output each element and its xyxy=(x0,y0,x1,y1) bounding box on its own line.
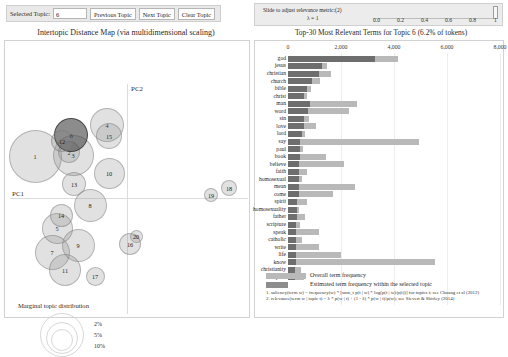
topic-bubble-14[interactable]: 14 xyxy=(50,204,73,227)
legend-label-overall: Overall term frequency xyxy=(310,272,366,278)
term-row[interactable]: catholic xyxy=(288,237,500,243)
term-label[interactable]: jesus xyxy=(275,62,286,68)
term-label[interactable]: father xyxy=(273,213,286,219)
topic-bubble-17[interactable]: 17 xyxy=(86,267,105,286)
term-label[interactable]: faith xyxy=(276,168,286,174)
term-row[interactable]: god xyxy=(288,56,500,62)
bar-topic-frequency xyxy=(288,131,302,137)
topic-bubble-number: 9 xyxy=(76,242,79,249)
bar-topic-frequency xyxy=(288,191,299,197)
term-row[interactable]: bible xyxy=(288,86,500,92)
intertopic-map-plot[interactable]: PC2 PC1 1234567891011121314151617181920 … xyxy=(4,40,250,318)
bar-topic-frequency xyxy=(288,154,300,160)
term-label[interactable]: love xyxy=(276,123,286,129)
term-row[interactable]: father xyxy=(288,214,500,220)
relevance-slider-label: Slide to adjust relevance metric:(2) xyxy=(263,7,353,14)
topic-bubble-number: 14 xyxy=(58,212,64,219)
term-row[interactable]: church xyxy=(288,78,500,84)
term-row[interactable]: believe xyxy=(288,161,500,167)
term-row[interactable]: speak xyxy=(288,229,500,235)
term-label[interactable]: speak xyxy=(273,229,286,235)
bar-topic-frequency xyxy=(288,259,296,265)
topic-bubble-18[interactable]: 18 xyxy=(221,180,237,196)
term-label[interactable]: christian xyxy=(267,70,286,76)
marginal-legend-title: Marginal topic distribution xyxy=(18,302,138,309)
term-row[interactable]: paul xyxy=(288,146,500,152)
term-label[interactable]: homosexual xyxy=(259,176,286,182)
term-row[interactable]: faith xyxy=(288,169,500,175)
term-label[interactable]: know xyxy=(274,259,286,265)
term-label[interactable]: say xyxy=(279,138,286,144)
term-label[interactable]: paul xyxy=(276,146,286,152)
bar-topic-frequency xyxy=(288,184,299,190)
term-row[interactable]: jesus xyxy=(288,63,500,69)
term-label[interactable]: sin xyxy=(279,115,286,121)
term-label[interactable]: catholic xyxy=(268,236,286,242)
clear-topic-button[interactable]: Clear Topic xyxy=(178,8,215,20)
term-row[interactable]: spirit xyxy=(288,199,500,205)
topic-bubble-10[interactable]: 10 xyxy=(94,158,125,189)
term-label[interactable]: christ xyxy=(274,93,286,99)
term-row[interactable]: sin xyxy=(288,116,500,122)
term-label[interactable]: scripture xyxy=(266,221,286,227)
topic-bubble-number: 20 xyxy=(133,233,139,240)
previous-topic-button[interactable]: Previous Topic xyxy=(90,8,136,20)
term-label[interactable]: god xyxy=(278,55,286,61)
marginal-circle-10pct xyxy=(51,329,73,351)
topic-bubble-15[interactable]: 15 xyxy=(96,123,122,149)
topic-bubble-11[interactable]: 11 xyxy=(49,254,81,286)
term-row[interactable]: book xyxy=(288,154,500,160)
term-row[interactable]: word xyxy=(288,108,500,114)
term-label[interactable]: man xyxy=(276,100,286,106)
term-label[interactable]: life xyxy=(279,251,286,257)
legend-row-topic: Estimated term frequency within the sele… xyxy=(266,281,502,289)
term-label[interactable]: church xyxy=(271,78,286,84)
term-row[interactable]: say xyxy=(288,139,500,145)
marginal-topic-legend: Marginal topic distribution 2% 5% 10% xyxy=(18,302,138,309)
term-row[interactable]: homosexual xyxy=(288,176,500,182)
term-label[interactable]: homosexuality xyxy=(253,206,286,212)
bar-topic-frequency xyxy=(288,214,297,220)
term-label[interactable]: bible xyxy=(275,85,286,91)
term-row[interactable]: come xyxy=(288,191,500,197)
term-row[interactable]: christ xyxy=(288,93,500,99)
topic-bubble-number: 17 xyxy=(92,273,98,280)
term-label[interactable]: word xyxy=(275,108,287,114)
term-row[interactable]: man xyxy=(288,101,500,107)
next-topic-button[interactable]: Next Topic xyxy=(139,8,175,20)
term-row[interactable]: scripture xyxy=(288,222,500,228)
term-row[interactable]: lord xyxy=(288,131,500,137)
topic-bubble-number: 1 xyxy=(33,153,36,160)
bar-topic-frequency xyxy=(288,86,307,92)
term-row[interactable]: christian xyxy=(288,71,500,77)
bar-overall-frequency xyxy=(288,252,341,258)
term-label[interactable]: come xyxy=(274,191,286,197)
bar-overall-frequency xyxy=(288,139,419,145)
selected-topic-input[interactable]: 6 xyxy=(53,8,87,19)
bar-topic-frequency xyxy=(288,93,304,99)
term-row[interactable]: love xyxy=(288,123,500,129)
lambda-tick-0-4: 0.4 xyxy=(421,17,428,23)
topic-bubble-19[interactable]: 19 xyxy=(204,188,218,202)
term-row[interactable]: know xyxy=(288,259,500,265)
term-label[interactable]: believe xyxy=(270,161,286,167)
topic-bubble-13[interactable]: 13 xyxy=(62,172,86,196)
term-label[interactable]: spirit xyxy=(275,198,287,204)
term-label[interactable]: write xyxy=(275,244,287,250)
term-label[interactable]: lord xyxy=(277,130,286,136)
term-row[interactable]: homosexuality xyxy=(288,207,500,213)
relevance-slider-track[interactable] xyxy=(373,18,497,19)
bar-overall-frequency xyxy=(288,259,435,265)
barchart-legend: Overall term frequency Estimated term fr… xyxy=(266,272,502,302)
term-label[interactable]: book xyxy=(275,153,286,159)
term-row[interactable]: mean xyxy=(288,184,500,190)
topic-bubble-number: 7 xyxy=(50,249,53,256)
term-row[interactable]: life xyxy=(288,252,500,258)
bar-topic-frequency xyxy=(288,237,296,243)
topic-bubble-20[interactable]: 20 xyxy=(130,230,143,243)
topic-bubble-number: 10 xyxy=(106,170,112,177)
legend-swatch-topic xyxy=(266,282,288,288)
term-row[interactable]: write xyxy=(288,244,500,250)
topic-bubble-12[interactable]: 12 xyxy=(51,130,73,152)
term-label[interactable]: mean xyxy=(274,183,286,189)
